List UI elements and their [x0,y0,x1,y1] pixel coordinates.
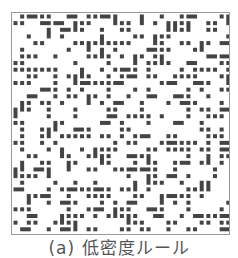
dot-pattern-grid [11,12,230,235]
figure-caption: (a) 低密度ルール [0,238,238,258]
dot-pattern-canvas [12,13,229,234]
